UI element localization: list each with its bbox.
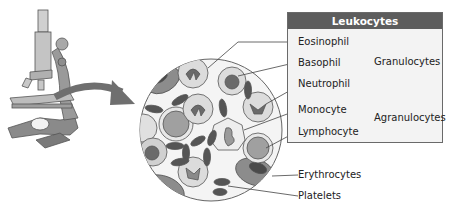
label-eosinophil: Eosinophil: [298, 36, 349, 48]
legend-title: Leukocytes: [288, 13, 442, 29]
label-basophil: Basophil: [298, 57, 341, 69]
blood-smear-view: [129, 58, 282, 211]
label-neutrophil: Neutrophil: [298, 78, 350, 90]
microscope-icon: [8, 10, 78, 148]
label-monocyte: Monocyte: [298, 104, 347, 116]
label-agranulocytes: Agranulocytes: [374, 112, 446, 124]
label-lymphocyte: Lymphocyte: [298, 126, 359, 138]
label-granulocytes: Granulocytes: [374, 56, 440, 68]
label-erythrocytes: Erythrocytes: [298, 169, 361, 181]
label-platelets: Platelets: [298, 190, 341, 202]
